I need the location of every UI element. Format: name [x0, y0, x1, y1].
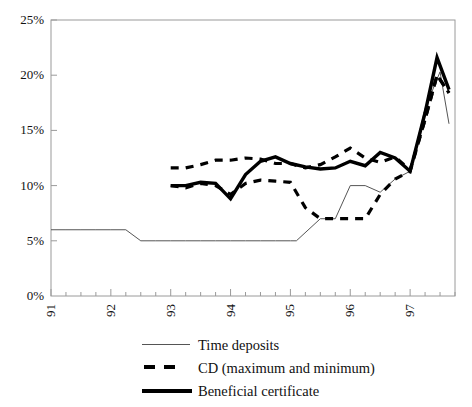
- legend-label-cd: CD (maximum and minimum): [198, 360, 375, 377]
- data-series-group: [51, 58, 449, 241]
- x-tick-label: 97: [403, 304, 416, 317]
- legend-item-time-deposits: Time deposits: [140, 334, 279, 356]
- legend-item-cd: CD (maximum and minimum): [140, 357, 375, 379]
- x-tick-label: 96: [343, 304, 356, 317]
- x-tick-label: 94: [224, 304, 237, 317]
- x-tick-label: 93: [164, 304, 177, 317]
- legend-swatch-thick-solid-icon: [140, 384, 192, 398]
- x-tick-label: 91: [44, 304, 57, 317]
- y-tick-label: 20%: [0, 68, 44, 81]
- legend-swatch-thin-solid-icon: [140, 338, 192, 352]
- legend-swatch-dashed-icon: [140, 361, 192, 375]
- y-tick-label: 25%: [0, 13, 44, 26]
- y-tick-label: 5%: [0, 234, 44, 247]
- legend-label-time-deposits: Time deposits: [198, 337, 279, 354]
- x-tick-label: 95: [283, 304, 296, 317]
- y-tick-label: 0%: [0, 289, 44, 302]
- y-tick-label: 10%: [0, 179, 44, 192]
- legend-label-beneficial-certificate: Beneficial certificate: [198, 383, 319, 400]
- chart-legend: Time deposits CD (maximum and minimum) B…: [0, 330, 472, 407]
- x-tick-label: 92: [104, 304, 117, 317]
- y-tick-label: 15%: [0, 123, 44, 136]
- legend-item-beneficial-certificate: Beneficial certificate: [140, 380, 319, 402]
- chart-container: 0%5%10%15%20%25% 91929394959697 Time dep…: [0, 0, 472, 407]
